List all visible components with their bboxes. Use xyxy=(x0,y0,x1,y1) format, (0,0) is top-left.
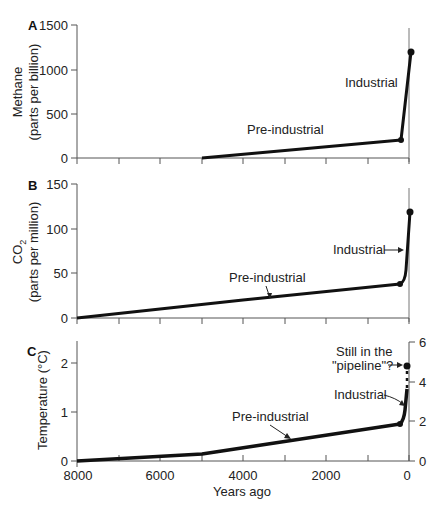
c-label-pipeline-line1: Still in the xyxy=(336,344,392,359)
c-xtick-2000: 2000 xyxy=(312,468,341,483)
c-xlabel: Years ago xyxy=(213,484,271,499)
a-marker-preindustrial-end xyxy=(398,137,404,143)
c-ytick-1: 1 xyxy=(61,405,68,420)
panel-a: A 1500 1000 500 0 Methane (parts per bil… xyxy=(10,18,415,166)
a-label-preindustrial: Pre-industrial xyxy=(247,122,324,137)
b-marker-present xyxy=(407,209,414,216)
c-ylabel: Temperature (°C) xyxy=(35,350,50,450)
c-arrowhead-preindustrial xyxy=(284,433,291,439)
panel-a-letter: A xyxy=(28,18,38,33)
c-label-pipeline-line2: "pipeline"? xyxy=(332,358,393,373)
c-label-industrial: Industrial xyxy=(334,387,387,402)
a-methane-line xyxy=(202,52,411,158)
b-ytick-50: 50 xyxy=(54,266,68,281)
panel-b-letter: B xyxy=(28,178,37,193)
panel-b: B 150 100 50 0 CO2 (parts per million) P… xyxy=(10,177,414,326)
b-ytick-150: 150 xyxy=(46,177,68,192)
c-xtick-8000: 8000 xyxy=(64,468,93,483)
a-ylabel-methane: Methane xyxy=(10,67,25,118)
c-marker-preindustrial-end xyxy=(397,421,403,427)
c-xtick-4000: 4000 xyxy=(229,468,258,483)
a-ytick-1500: 1500 xyxy=(39,18,68,33)
c-arrow-industrial xyxy=(384,395,403,404)
a-ytick-1000: 1000 xyxy=(39,63,68,78)
a-ytick-500: 500 xyxy=(46,107,68,122)
c-xtick-0: 0 xyxy=(403,468,410,483)
b-marker-preindustrial-end xyxy=(397,281,403,287)
b-label-industrial: Industrial xyxy=(333,242,386,257)
c-y2tick-4: 4 xyxy=(419,375,426,390)
c-label-preindustrial: Pre-industrial xyxy=(232,409,309,424)
a-label-industrial: Industrial xyxy=(345,75,398,90)
c-ytick-0: 0 xyxy=(61,454,68,469)
c-y2tick-6: 6 xyxy=(419,335,426,350)
c-marker-pipeline xyxy=(404,363,411,370)
b-arrowhead-industrial xyxy=(398,247,404,253)
a-ytick-0: 0 xyxy=(61,151,68,166)
b-ytick-0: 0 xyxy=(61,311,68,326)
a-ylabel-units: (parts per billion) xyxy=(26,44,41,141)
c-arrowhead-pipeline xyxy=(397,362,403,368)
b-co2-line xyxy=(77,212,410,318)
c-y2tick-0: 0 xyxy=(419,454,426,469)
c-y2tick-2: 2 xyxy=(419,414,426,429)
b-ytick-100: 100 xyxy=(46,222,68,237)
c-ytick-2: 2 xyxy=(61,356,68,371)
b-label-preindustrial: Pre-industrial xyxy=(229,270,306,285)
a-marker-present xyxy=(408,49,415,56)
panel-c: C 2 1 0 6 4 2 0 8000 xyxy=(27,335,426,499)
c-xtick-6000: 6000 xyxy=(146,468,175,483)
figure-canvas: A 1500 1000 500 0 Methane (parts per bil… xyxy=(0,0,442,509)
c-arrow-preindustrial xyxy=(270,425,288,437)
b-ylabel-units: (parts per million) xyxy=(26,202,41,302)
